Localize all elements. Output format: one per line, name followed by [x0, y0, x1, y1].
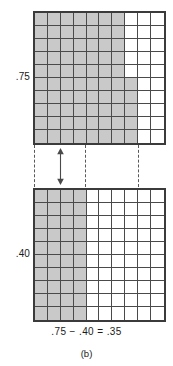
grid-cell	[48, 130, 61, 143]
grid-cell	[138, 91, 151, 104]
grid-cell	[112, 268, 125, 281]
grid-cell	[35, 117, 48, 130]
grid-cell	[48, 52, 61, 65]
grid-cell	[48, 255, 61, 268]
grid-cell	[48, 203, 61, 216]
grid-cell	[112, 52, 125, 65]
grid-cell	[35, 255, 48, 268]
grid-cell	[61, 117, 74, 130]
grid-cell	[35, 52, 48, 65]
grid-cell	[112, 78, 125, 91]
grid-cell	[35, 216, 48, 229]
grid-cell	[35, 229, 48, 242]
grid-cell	[99, 307, 112, 320]
grid-cell	[35, 307, 48, 320]
grid-cell	[48, 78, 61, 91]
grid-cell	[61, 294, 74, 307]
grid-cell	[138, 255, 151, 268]
grid-cell	[112, 216, 125, 229]
grid-cell	[99, 52, 112, 65]
grid-cell	[138, 117, 151, 130]
grid-cell	[112, 203, 125, 216]
grid-cell	[74, 65, 87, 78]
grid-cell	[87, 65, 100, 78]
grid-cell	[112, 13, 125, 26]
grid-cell	[99, 65, 112, 78]
grid-cell	[74, 268, 87, 281]
grid-cell	[61, 130, 74, 143]
grid-cell	[35, 78, 48, 91]
grid-cell	[87, 78, 100, 91]
grid-cell	[74, 26, 87, 39]
grid-cell	[74, 203, 87, 216]
hundredths-grid-subtrahend	[33, 188, 166, 322]
subtrahend-value-label: .40	[2, 249, 30, 259]
grid-cell	[61, 190, 74, 203]
grid-cell	[48, 190, 61, 203]
grid-cell	[151, 190, 164, 203]
grid-cell	[87, 130, 100, 143]
grid-cell	[61, 242, 74, 255]
grid-cell	[151, 91, 164, 104]
grid-cell	[61, 13, 74, 26]
grid-cell	[74, 242, 87, 255]
grid-cell	[48, 117, 61, 130]
grid-cell	[48, 13, 61, 26]
grid-cell	[87, 117, 100, 130]
grid-cell	[35, 13, 48, 26]
grid-cell	[151, 307, 164, 320]
grid-cell	[99, 281, 112, 294]
grid-cell	[61, 26, 74, 39]
grid-cell	[112, 39, 125, 52]
grid-cell	[74, 117, 87, 130]
grid-cell	[112, 91, 125, 104]
grid-cell	[87, 294, 100, 307]
grid-cell	[151, 229, 164, 242]
grid-cell	[74, 307, 87, 320]
hundredths-grid-minuend	[33, 11, 166, 145]
grid-cell	[87, 229, 100, 242]
grid-cell	[138, 26, 151, 39]
grid-cell	[138, 104, 151, 117]
grid-cell	[125, 268, 138, 281]
grid-cell	[35, 294, 48, 307]
grid-cell	[87, 203, 100, 216]
grid-cell	[48, 307, 61, 320]
grid-cell	[125, 78, 138, 91]
grid-cell	[125, 39, 138, 52]
grid-cell	[61, 39, 74, 52]
grid-cell	[74, 130, 87, 143]
grid-cell	[74, 104, 87, 117]
grid-cell	[151, 130, 164, 143]
guide-line-left-icon	[34, 145, 35, 187]
grid-cell	[61, 268, 74, 281]
grid-cell	[99, 242, 112, 255]
grid-cell	[87, 216, 100, 229]
grid-cell	[35, 104, 48, 117]
grid-cell	[125, 190, 138, 203]
grid-cell	[125, 104, 138, 117]
grid-cell	[112, 307, 125, 320]
grid-cell	[87, 307, 100, 320]
grid-cell	[112, 229, 125, 242]
decimal-subtraction-figure: .75 .40 .75 − .40 = .35 (b)	[0, 0, 173, 366]
grid-cell	[48, 26, 61, 39]
grid-cell	[138, 203, 151, 216]
grid-cell	[87, 268, 100, 281]
grid-cell	[151, 78, 164, 91]
grid-cell	[48, 281, 61, 294]
grid-cell	[138, 65, 151, 78]
grid-cell	[99, 130, 112, 143]
grid-cell	[125, 203, 138, 216]
grid-cell	[48, 65, 61, 78]
grid-cell	[61, 52, 74, 65]
grid-cell	[61, 104, 74, 117]
grid-cell	[151, 216, 164, 229]
double-headed-arrow-icon	[55, 148, 66, 185]
grid-cell	[99, 91, 112, 104]
grid-cell	[151, 281, 164, 294]
grid-cell	[112, 242, 125, 255]
grid-cell	[74, 190, 87, 203]
grid-cell	[74, 229, 87, 242]
grid-cell	[99, 229, 112, 242]
